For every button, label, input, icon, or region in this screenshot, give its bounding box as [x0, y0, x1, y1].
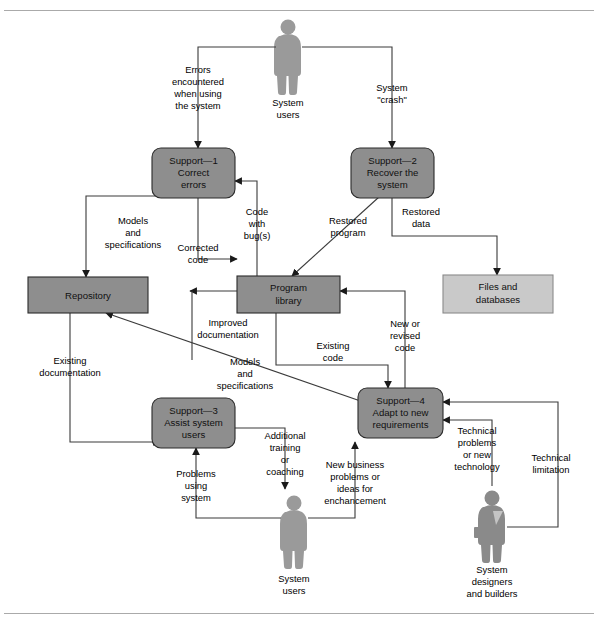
- flow-label-line: ideas for: [337, 483, 373, 494]
- flow-label-line: Existing: [317, 340, 350, 351]
- process-label: Adapt to new: [372, 407, 428, 418]
- flow-label-line: or: [281, 454, 289, 465]
- flow-label-line: and: [125, 227, 141, 238]
- support-activities-diagram: System users System users System designe…: [0, 0, 598, 625]
- flow-label-line: technology: [454, 461, 500, 472]
- actor-label: users: [277, 109, 300, 120]
- flow-label-line: code: [188, 254, 208, 265]
- flow-label-new-business-problems: New business problems or ideas for encha…: [324, 459, 386, 506]
- datastore-label: Repository: [65, 290, 111, 301]
- flow-label-existing-code: Existing code: [317, 340, 350, 363]
- process-label: Assist system: [164, 417, 223, 428]
- flow-label-line: using: [185, 480, 207, 491]
- actor-label: designers: [472, 576, 513, 587]
- datastore-program-library[interactable]: Program library: [237, 276, 340, 313]
- flow-label-line: specifications: [217, 380, 274, 391]
- flow-label-line: System: [376, 82, 407, 93]
- flow-label-line: Problems: [176, 468, 216, 479]
- datastore-label: Program: [270, 282, 307, 293]
- process-support-2[interactable]: Support—2 Recover the system: [351, 148, 434, 198]
- flow-label-line: Additional: [264, 430, 305, 441]
- flow-label-line: code: [395, 342, 415, 353]
- flow-label-line: Errors: [185, 64, 211, 75]
- process-label: Support—3: [169, 405, 218, 416]
- flow-label-models-specs-left: Models and specifications: [105, 215, 162, 250]
- process-label: Correct: [178, 167, 210, 178]
- flow-label-additional-training: Additional training or coaching: [264, 430, 305, 477]
- process-label: errors: [181, 179, 206, 190]
- flow-label-line: documentation: [197, 329, 259, 340]
- datastore-label: library: [275, 295, 301, 306]
- flow-label-line: Technical: [457, 425, 496, 436]
- process-label: Support—4: [376, 395, 425, 406]
- figure-canvas: System users System users System designe…: [0, 0, 598, 625]
- datastore-label: Files and: [479, 281, 518, 292]
- process-support-1[interactable]: Support—1 Correct errors: [152, 148, 235, 198]
- process-label: Support—1: [169, 155, 218, 166]
- flow-label-line: data: [412, 218, 431, 229]
- flow-label-line: Models: [118, 215, 149, 226]
- flow-label-line: training: [270, 442, 301, 453]
- process-label: users: [182, 429, 206, 440]
- flow-label-restored-program: Restored program: [329, 215, 367, 238]
- flow-label-line: Corrected: [177, 242, 218, 253]
- actor-label: users: [283, 585, 306, 596]
- flow-label-technical-problems: Technical problems or new technology: [454, 425, 500, 472]
- process-support-3[interactable]: Support—3 Assist system users: [152, 398, 235, 448]
- actor-system-designers: [474, 491, 505, 564]
- process-label: Recover the: [367, 167, 419, 178]
- actor-label: and builders: [466, 588, 517, 599]
- flow-label-line: coaching: [266, 466, 304, 477]
- flow-label-line: problems or: [330, 471, 380, 482]
- flow-label-corrected-code: Corrected code: [177, 242, 218, 265]
- flow-label-line: documentation: [39, 367, 101, 378]
- flow-label-line: Restored: [329, 215, 367, 226]
- flow-label-line: revised: [390, 330, 420, 341]
- flow-label-line: New business: [326, 459, 385, 470]
- datastore-label: databases: [476, 294, 520, 305]
- flow-label-line: Existing: [54, 355, 87, 366]
- flow-label-line: or new: [463, 449, 491, 460]
- flow-label-problems-using-system: Problems using system: [176, 468, 216, 503]
- flow-label-line: limitation: [533, 464, 570, 475]
- process-label: requirements: [373, 419, 429, 430]
- flow-label-line: Improved: [208, 317, 247, 328]
- flow-label-line: and: [237, 368, 253, 379]
- flow-label-restored-data: Restored data: [402, 206, 440, 229]
- flow-label-line: enchancement: [324, 495, 386, 506]
- flow-label-line: program: [331, 227, 366, 238]
- flow-line-problems-using-system: [196, 448, 281, 518]
- actor-system-users-bottom: [280, 496, 307, 570]
- process-label: system: [377, 179, 407, 190]
- actor-label: System: [272, 97, 303, 108]
- flow-label-new-or-revised-code: New or revised code: [390, 318, 420, 353]
- flow-label-line: Restored: [402, 206, 440, 217]
- flow-label-line: the system: [175, 100, 221, 111]
- process-support-4[interactable]: Support—4 Adapt to new requirements: [358, 388, 443, 438]
- flow-label-line: Code: [246, 206, 268, 217]
- flow-label-line: problems: [458, 437, 497, 448]
- actor-label: System: [476, 564, 507, 575]
- flow-label-line: when using: [173, 88, 221, 99]
- flow-label-technical-limitation: Technical limitation: [531, 452, 570, 475]
- flow-label-models-specs-diagonal: Models and specifications: [217, 356, 274, 391]
- flow-label-line: New or: [390, 318, 420, 329]
- flow-label-line: encountered: [172, 76, 224, 87]
- process-label: Support—2: [368, 155, 417, 166]
- flow-label-line: code: [323, 352, 343, 363]
- datastore-repository[interactable]: Repository: [28, 277, 148, 313]
- flow-label-line: Models: [230, 356, 261, 367]
- flow-label-line: system: [181, 492, 211, 503]
- actor-system-users-top: [274, 20, 301, 96]
- flow-label-line: Technical: [531, 452, 570, 463]
- datastore-files-databases[interactable]: Files and databases: [443, 275, 553, 313]
- flow-label-existing-documentation: Existing documentation: [39, 355, 101, 378]
- flow-label-line: "crash": [377, 94, 407, 105]
- flow-label-system-crash: System "crash": [376, 82, 407, 105]
- flow-label-line: specifications: [105, 239, 162, 250]
- flow-label-line: with: [248, 218, 266, 229]
- flow-label-line: bug(s): [244, 230, 271, 241]
- flow-label-errors-encountered: Errors encountered when using the system: [172, 64, 224, 111]
- actor-label: System: [278, 573, 309, 584]
- flow-label-improved-documentation: Improved documentation: [197, 317, 259, 340]
